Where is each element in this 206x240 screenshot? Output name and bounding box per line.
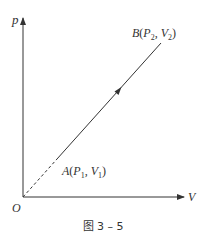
- x-axis-label: V: [188, 190, 197, 204]
- point-b-label: B(P2, V2): [132, 26, 176, 42]
- figure-caption: 图 3 – 5: [83, 220, 124, 233]
- dashed-extension-line: [23, 159, 57, 197]
- point-a-label: A(P1, V1): [61, 164, 106, 180]
- process-line-a-to-b: [57, 43, 161, 159]
- y-axis-label: p: [11, 12, 19, 27]
- origin-label: O: [12, 201, 21, 215]
- pv-diagram: p V O B(P2, V2) A(P1, V1) 图 3 – 5: [0, 0, 206, 240]
